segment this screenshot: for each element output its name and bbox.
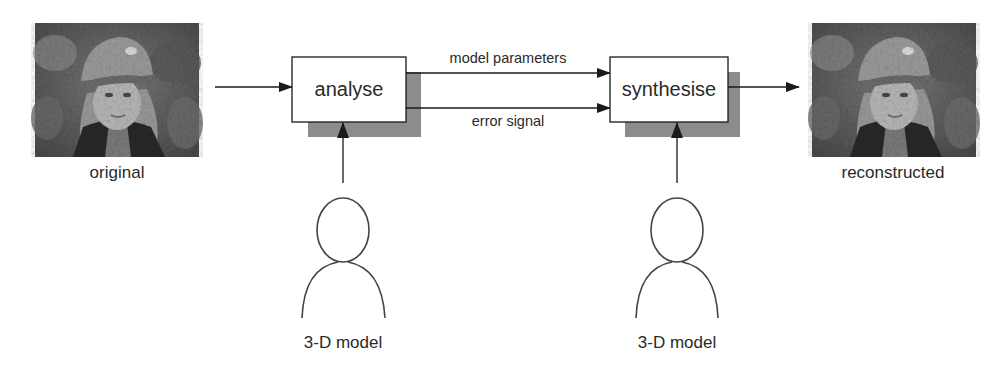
diagram: original analyse model parameters error … — [0, 0, 1003, 371]
analyse-block: analyse — [292, 57, 421, 137]
model-figure-left: 3-D model — [302, 123, 385, 352]
person-shoulders-icon — [302, 262, 385, 318]
person-head-icon — [651, 198, 703, 262]
error-signal-label: error signal — [472, 113, 545, 129]
person-head-icon — [317, 198, 369, 262]
analyse-label: analyse — [315, 78, 384, 100]
reconstructed-image — [808, 23, 980, 157]
model-parameters-label: model parameters — [450, 50, 567, 66]
model-label-left: 3-D model — [304, 333, 382, 352]
original-label: original — [90, 163, 145, 182]
person-shoulders-icon — [636, 262, 718, 318]
reconstructed-label: reconstructed — [842, 163, 945, 182]
model-figure-right: 3-D model — [636, 123, 718, 352]
diagram-canvas: original analyse model parameters error … — [0, 0, 1003, 371]
synthesise-label: synthesise — [622, 78, 717, 100]
synthesise-block: synthesise — [610, 57, 740, 137]
original-image — [31, 23, 203, 157]
model-label-right: 3-D model — [638, 333, 716, 352]
